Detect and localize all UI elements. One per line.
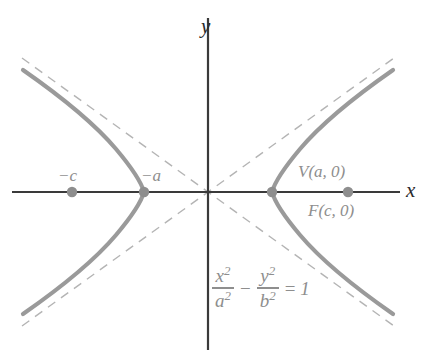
hyperbola-figure: y x −c −a V(a, 0) F(c, 0) x2 a2 − y2 b2 … [0, 0, 434, 364]
y-numerator-exponent: 2 [269, 263, 275, 278]
label-left-focus: −c [58, 167, 77, 184]
equation-right-side: 1 [300, 279, 310, 298]
point-left-focus [67, 187, 77, 197]
x-term-denominator: a2 [212, 290, 234, 311]
x-axis-label: x [406, 180, 415, 201]
x-denominator-exponent: 2 [225, 287, 231, 302]
x-term-fraction: x2 a2 [212, 265, 234, 311]
label-right-focus: F(c, 0) [308, 202, 354, 219]
x-denominator-variable: a [215, 290, 225, 311]
y-term-numerator: y2 [257, 265, 278, 286]
point-right-focus [343, 187, 353, 197]
y-axis-label: y [201, 16, 210, 37]
y-denominator-variable: b [260, 290, 270, 311]
x-numerator-variable: x [216, 265, 224, 286]
y-numerator-variable: y [260, 265, 268, 286]
equals-sign: = [285, 279, 296, 298]
label-left-vertex: −a [141, 167, 161, 184]
x-term-numerator: x2 [213, 265, 234, 286]
x-numerator-exponent: 2 [224, 263, 230, 278]
y-denominator-exponent: 2 [269, 287, 275, 302]
point-left-vertex [139, 187, 149, 197]
hyperbola-equation: x2 a2 − y2 b2 = 1 [211, 265, 310, 311]
y-term-denominator: b2 [257, 290, 279, 311]
label-right-vertex: V(a, 0) [298, 163, 345, 180]
minus-operator: − [240, 279, 251, 298]
y-term-fraction: y2 b2 [257, 265, 279, 311]
point-right-vertex [267, 187, 277, 197]
